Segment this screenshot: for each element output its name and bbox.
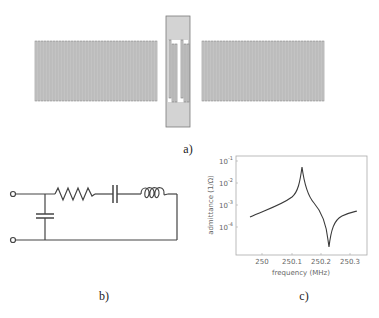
panel-c-label: c) <box>299 289 308 303</box>
right-reflector-grating <box>202 41 324 101</box>
y-tick-label: 10-1 <box>219 155 233 166</box>
panel-b-label: b) <box>99 289 109 303</box>
panel-a-label: a) <box>183 142 192 156</box>
admittance-chart: 10-110-210-310-4 250250.1250.2250.3 freq… <box>207 155 367 277</box>
x-axis-label: frequency (MHz) <box>272 269 330 277</box>
terminal-top <box>11 192 16 197</box>
y-axis-label: admittance (1/Ω) <box>207 175 215 235</box>
series-capacitor <box>113 185 117 203</box>
figure: a) b) 10-110-210-310-4 250250.1250.2 <box>0 0 379 318</box>
series-inductor <box>141 188 168 198</box>
left-reflector-grating <box>35 41 157 101</box>
y-tick-label: 10-3 <box>219 199 233 210</box>
y-tick-label: 10-2 <box>219 177 233 188</box>
interdigital-transducer <box>166 16 190 127</box>
x-tick-label: 250.2 <box>311 258 331 266</box>
admittance-curve <box>250 167 357 247</box>
series-resistor <box>55 188 95 200</box>
terminal-bottom <box>11 238 16 243</box>
shunt-capacitor <box>36 194 54 240</box>
y-tick-label: 10-4 <box>219 221 233 232</box>
x-tick-label: 250 <box>255 258 268 266</box>
x-tick-label: 250.1 <box>282 258 302 266</box>
x-tick-label: 250.3 <box>340 258 360 266</box>
equivalent-circuit <box>11 185 178 243</box>
